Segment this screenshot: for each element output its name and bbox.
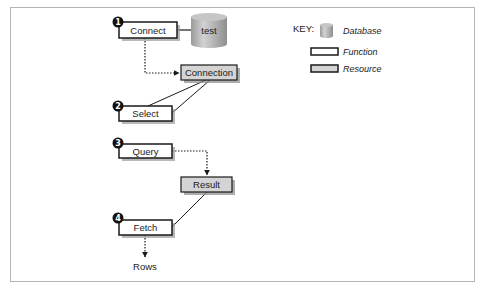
node-connect: Connect xyxy=(119,22,180,41)
legend-resource-label: Resource xyxy=(343,64,382,74)
node-connect-label: Connect xyxy=(130,25,166,36)
node-select-label: Select xyxy=(132,108,159,119)
edge-connect-connection xyxy=(145,38,179,73)
svg-text:3: 3 xyxy=(115,139,121,148)
node-rows-label: Rows xyxy=(133,261,157,272)
node-query: Query xyxy=(119,144,175,161)
node-database: test xyxy=(191,13,227,48)
legend-title: KEY: xyxy=(293,23,314,34)
edge-query-result xyxy=(172,151,207,175)
diagram-canvas: Connect 1 test Connection Select 2 Query… xyxy=(0,0,482,288)
legend-resource-swatch xyxy=(311,65,338,72)
step-badge-1: 1 xyxy=(113,17,124,28)
svg-text:4: 4 xyxy=(115,214,121,223)
node-database-label: test xyxy=(201,25,217,36)
node-result: Result xyxy=(181,177,235,195)
node-connection: Connection xyxy=(181,65,240,83)
node-fetch-label: Fetch xyxy=(134,222,158,233)
node-result-label: Result xyxy=(193,179,220,190)
node-fetch: Fetch xyxy=(119,220,175,238)
legend-database-icon xyxy=(320,23,333,38)
step-badge-4: 4 xyxy=(113,213,124,224)
edge-select-connection-a xyxy=(148,80,206,106)
step-badge-2: 2 xyxy=(113,101,124,112)
step-badge-3: 3 xyxy=(113,138,124,149)
edge-fetch-result xyxy=(172,192,207,227)
edge-select-connection-b xyxy=(172,80,210,113)
legend: KEY: Database Function Resource xyxy=(293,23,382,74)
svg-text:2: 2 xyxy=(115,102,121,111)
legend-database-label: Database xyxy=(343,26,382,36)
node-select: Select xyxy=(119,106,175,124)
legend-function-swatch xyxy=(311,48,338,55)
node-query-label: Query xyxy=(133,146,159,157)
node-connection-label: Connection xyxy=(185,67,233,78)
svg-text:1: 1 xyxy=(115,18,121,27)
legend-function-label: Function xyxy=(343,47,378,57)
